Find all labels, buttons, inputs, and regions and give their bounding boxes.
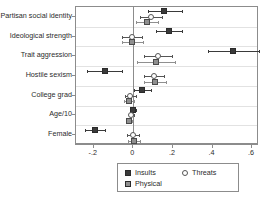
confidence-interval-cap [142, 36, 143, 39]
coefficient-plot-figure: Partisan social identityIdeological stre… [0, 0, 272, 200]
legend-label: Physical [135, 179, 162, 188]
confidence-interval-cap [134, 100, 135, 103]
confidence-interval-cap [144, 55, 145, 58]
confidence-interval-cap [87, 70, 88, 73]
x-axis-tick-label: .4 [200, 149, 224, 157]
plot-area [75, 6, 258, 144]
confidence-interval-cap [162, 16, 163, 19]
x-axis-line [75, 144, 258, 145]
confidence-interval-cap [136, 109, 137, 112]
estimate-marker-physical [126, 98, 132, 104]
y-axis-label-partisan-social-identity: Partisan social identity [0, 12, 72, 20]
legend-entry-insults[interactable]: Insults [123, 168, 179, 178]
confidence-interval-cap [140, 140, 141, 143]
confidence-interval-cap [148, 10, 149, 13]
confidence-interval-cap [259, 50, 260, 53]
confidence-interval-cap [172, 55, 173, 58]
estimate-marker-insults [230, 48, 236, 54]
confidence-interval-cap [85, 129, 86, 132]
x-axis-tick-label: 0 [120, 149, 144, 157]
confidence-interval-cap [136, 95, 137, 98]
confidence-interval-cap [139, 134, 140, 137]
estimate-marker-physical [131, 138, 137, 144]
legend-marker-physical-icon [125, 181, 131, 187]
confidence-interval-cap [164, 75, 165, 78]
confidence-interval-cap [182, 30, 183, 33]
y-axis-label-ideological-strength: Ideological strength [0, 32, 72, 40]
confidence-interval-cap [122, 41, 123, 44]
confidence-interval-cap [144, 81, 145, 84]
legend-marker-threats-icon [182, 170, 188, 176]
y-axis-label-college-grad: College grad [0, 91, 72, 99]
legend-entry-threats[interactable]: Threats [180, 168, 236, 178]
confidence-interval-cap [122, 36, 123, 39]
estimate-marker-insults [166, 28, 172, 34]
y-axis-label-age-10: Age/10 [0, 110, 72, 118]
confidence-interval-cap [158, 21, 159, 24]
confidence-interval-cap [151, 89, 152, 92]
confidence-interval-cap [137, 61, 138, 64]
x-axis-tick-label: -.2 [81, 149, 105, 157]
y-axis-label-female: Female [0, 130, 72, 138]
y-axis-label-hostile-sexism: Hostile sexism [0, 71, 72, 79]
confidence-interval-cap [127, 134, 128, 137]
confidence-interval-cap [124, 100, 125, 103]
confidence-interval-cap [128, 140, 129, 143]
legend-marker-insults-icon [125, 170, 131, 176]
estimate-marker-insults [92, 127, 98, 133]
legend: InsultsThreatsPhysical [117, 163, 239, 192]
x-axis-tick-label: .6 [239, 149, 263, 157]
confidence-interval-cap [105, 129, 106, 132]
legend-label: Threats [192, 168, 216, 177]
estimate-marker-insults [161, 8, 167, 14]
confidence-interval-cap [208, 50, 209, 53]
confidence-interval-cap [144, 75, 145, 78]
x-axis-tick-label: .2 [160, 149, 184, 157]
estimate-marker-physical [152, 79, 158, 85]
estimate-marker-insults [102, 68, 108, 74]
gridline [76, 125, 257, 126]
confidence-interval-cap [175, 61, 176, 64]
zero-reference-line [133, 7, 134, 143]
confidence-interval-cap [182, 10, 183, 13]
legend-entry-physical[interactable]: Physical [123, 179, 179, 189]
legend-label: Insults [135, 168, 156, 177]
confidence-interval-cap [166, 81, 167, 84]
estimate-marker-physical [153, 59, 159, 65]
estimate-marker-insults [139, 87, 145, 93]
confidence-interval-cap [140, 16, 141, 19]
estimate-marker-physical [126, 118, 132, 124]
gridline [76, 106, 257, 107]
confidence-interval-cap [143, 41, 144, 44]
gridline [76, 86, 257, 87]
confidence-interval-cap [134, 89, 135, 92]
confidence-interval-cap [122, 70, 123, 73]
confidence-interval-cap [136, 21, 137, 24]
estimate-marker-physical [129, 39, 135, 45]
confidence-interval-cap [156, 30, 157, 33]
estimate-marker-physical [144, 19, 150, 25]
y-axis-label-trait-aggression: Trait aggression [0, 51, 72, 59]
